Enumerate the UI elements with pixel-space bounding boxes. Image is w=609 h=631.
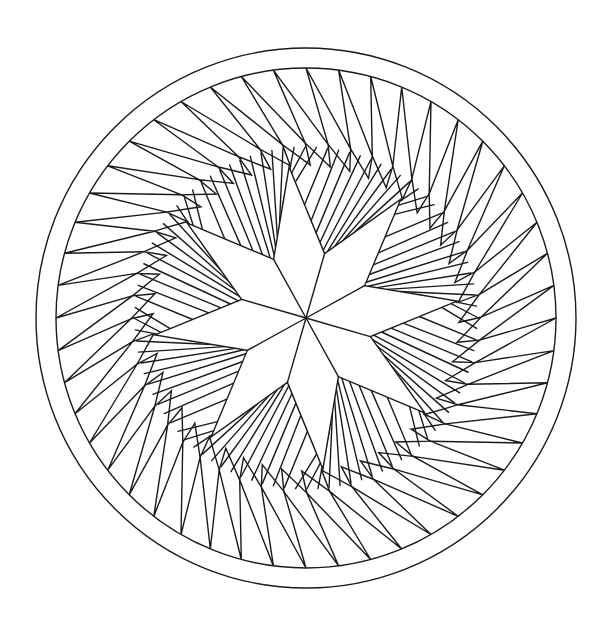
radial-line [178,422,218,432]
radial-line [252,394,292,481]
radial-line [296,454,317,489]
radial-line [295,147,316,182]
radial-line [410,406,420,446]
radial-line [193,190,203,230]
radial-line [394,205,434,215]
radial-line [135,308,170,329]
radial-line [442,307,477,328]
radial-line [320,156,360,243]
mandala-svg [0,0,609,631]
mandala-figure [0,0,609,631]
radial-line [144,264,231,304]
radial-line [382,332,469,372]
eight-point-star [155,167,457,469]
